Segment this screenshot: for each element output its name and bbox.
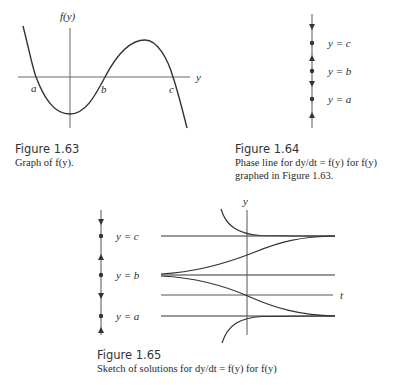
equilibrium-dot-c bbox=[99, 234, 103, 238]
arrow-up-icon bbox=[309, 112, 315, 118]
equilibrium-dot-b bbox=[99, 273, 103, 277]
equilibrium-label-c: y = c bbox=[115, 230, 139, 242]
figure-number: Figure 1.65 bbox=[97, 349, 397, 362]
arrow-up-icon bbox=[98, 327, 104, 333]
solution-above-c bbox=[221, 209, 335, 236]
equilibrium-label-c: y = c bbox=[327, 37, 351, 49]
root-label-a: a bbox=[31, 82, 37, 94]
caption-figure-1-63: Figure 1.63 Graph of f(y). bbox=[15, 143, 195, 169]
caption-figure-1-65: Figure 1.65 Sketch of solutions for dy/d… bbox=[97, 349, 397, 375]
solution-below-a bbox=[222, 316, 335, 343]
equilibrium-label-a: y = a bbox=[327, 93, 352, 105]
root-label-c: c bbox=[169, 83, 174, 95]
figure-number: Figure 1.63 bbox=[15, 143, 195, 156]
equilibrium-label-b: y = b bbox=[327, 65, 352, 77]
solution-b-to-c bbox=[161, 236, 335, 274]
arrow-down-icon bbox=[309, 81, 315, 87]
t-axis-label: t bbox=[340, 289, 344, 301]
f-of-y-graph: f(y) y a b c bbox=[18, 10, 201, 128]
figure-number: Figure 1.64 bbox=[235, 143, 419, 156]
equilibrium-label-a: y = a bbox=[115, 310, 140, 322]
caption-text: Graph of f(y). bbox=[15, 156, 195, 169]
vertical-axis-label: f(y) bbox=[60, 10, 76, 23]
arrow-up-icon bbox=[309, 55, 315, 61]
arrow-down-icon bbox=[309, 24, 315, 30]
equilibrium-dot-c bbox=[310, 41, 314, 45]
caption-text: graphed in Figure 1.63. bbox=[235, 169, 419, 182]
figure-1-63-graph: f(y) y a b c y = c y = b y = a y = c y =… bbox=[0, 0, 419, 385]
equilibrium-dot-a bbox=[99, 314, 103, 318]
caption-text: Phase line for dy/dt = f(y) for f(y) bbox=[235, 156, 419, 169]
solution-b-to-a bbox=[161, 276, 335, 316]
arrow-down-icon bbox=[98, 219, 104, 225]
y-axis-label: y bbox=[242, 195, 248, 207]
caption-figure-1-64: Figure 1.64 Phase line for dy/dt = f(y) … bbox=[235, 143, 419, 182]
root-label-b: b bbox=[101, 83, 107, 95]
horizontal-axis-label: y bbox=[195, 71, 201, 83]
phase-line-1-64: y = c y = b y = a bbox=[309, 14, 352, 128]
arrow-up-icon bbox=[98, 254, 104, 260]
equilibrium-dot-a bbox=[310, 97, 314, 101]
cubic-curve bbox=[23, 26, 187, 128]
equilibrium-dot-b bbox=[310, 69, 314, 73]
equilibrium-label-b: y = b bbox=[115, 269, 140, 281]
arrow-down-icon bbox=[98, 293, 104, 299]
caption-text: Sketch of solutions for dy/dt = f(y) for… bbox=[97, 362, 397, 375]
solutions-sketch-1-65: y = c y = b y = a y t bbox=[98, 195, 344, 343]
